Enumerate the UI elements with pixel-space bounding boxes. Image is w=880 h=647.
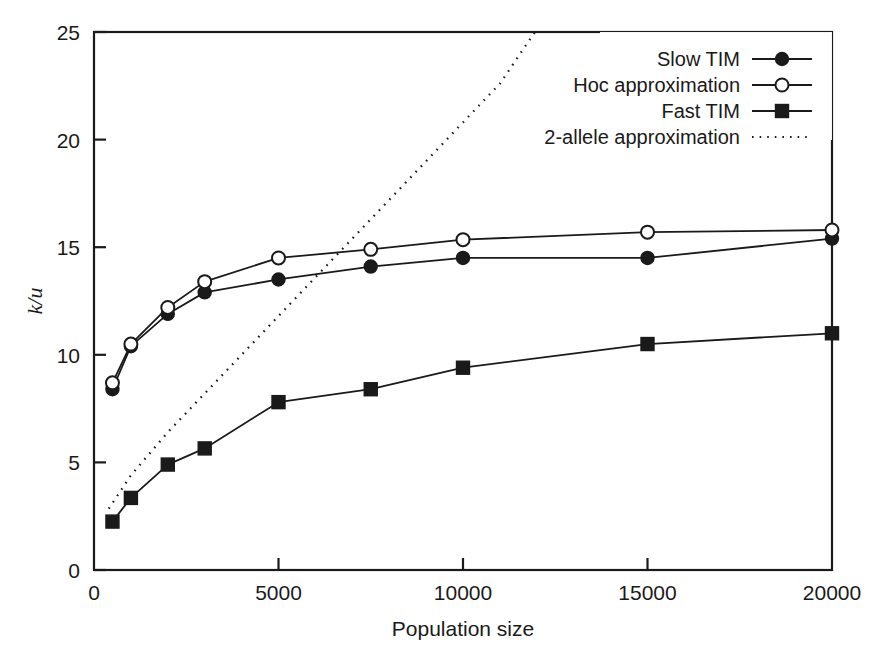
x-tick-label-15000: 15000: [618, 581, 676, 604]
data-point: [161, 458, 174, 471]
y-axis-tick-labels: 0510152025: [57, 21, 80, 582]
data-point: [641, 226, 654, 239]
data-point: [272, 396, 285, 409]
y-tick-label-20: 20: [57, 129, 80, 152]
data-point: [457, 361, 470, 374]
data-point: [272, 273, 285, 286]
data-point: [641, 338, 654, 351]
y-tick-label-0: 0: [68, 559, 80, 582]
y-axis-ticks: [94, 32, 106, 570]
data-point: [198, 275, 211, 288]
y-tick-label-25: 25: [57, 21, 80, 44]
data-point: [826, 327, 839, 340]
data-point: [364, 260, 377, 273]
data-point: [364, 383, 377, 396]
data-point: [364, 243, 377, 256]
data-point: [106, 376, 119, 389]
series-2-allele-approximation: [109, 32, 535, 509]
data-point: [641, 251, 654, 264]
series-line: [109, 32, 535, 509]
series-line: [112, 230, 832, 383]
legend-label: Slow TIM: [657, 48, 740, 70]
y-axis-title: k/u: [22, 288, 47, 315]
x-tick-label-10000: 10000: [434, 581, 492, 604]
x-tick-label-5000: 5000: [255, 581, 302, 604]
y-tick-label-15: 15: [57, 236, 80, 259]
series-line: [112, 333, 832, 521]
series-fast-tim: [106, 327, 839, 528]
legend-label: Hoc approximation: [573, 74, 740, 96]
y-tick-label-5: 5: [68, 451, 80, 474]
x-axis-ticks: [279, 558, 648, 570]
x-axis-tick-labels: 05000100001500020000: [88, 581, 861, 604]
data-point: [776, 105, 789, 118]
data-point: [124, 338, 137, 351]
x-tick-label-20000: 20000: [803, 581, 861, 604]
data-point: [161, 301, 174, 314]
y-tick-label-10: 10: [57, 344, 80, 367]
chart-figure: 0510152025 05000100001500020000 Populati…: [0, 0, 880, 647]
legend-label: 2-allele approximation: [544, 126, 740, 148]
data-point: [124, 491, 137, 504]
series-hoc-approximation: [106, 223, 839, 389]
data-point: [106, 515, 119, 528]
data-point: [272, 251, 285, 264]
series-slow-tim: [106, 232, 839, 396]
data-point: [826, 223, 839, 236]
x-tick-label-0: 0: [88, 581, 100, 604]
legend-label: Fast TIM: [661, 100, 740, 122]
data-point: [457, 233, 470, 246]
data-point: [457, 251, 470, 264]
x-axis-title: Population size: [392, 617, 534, 640]
data-point: [776, 79, 789, 92]
data-point: [776, 53, 789, 66]
data-point: [198, 442, 211, 455]
chart-legend: Slow TIMHoc approximationFast TIM2-allel…: [544, 32, 832, 148]
chart-canvas: 0510152025 05000100001500020000 Populati…: [0, 0, 880, 647]
